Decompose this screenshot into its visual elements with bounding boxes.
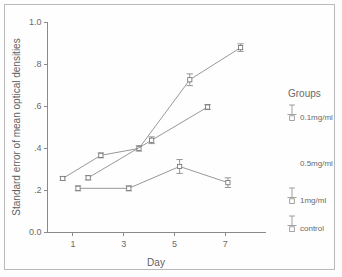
chart-figure: 0.0.2.4.6.81.0 1357 Day Standard error o… xyxy=(0,0,342,277)
data-point-marker xyxy=(76,186,80,190)
series-line xyxy=(88,107,207,178)
legend-item-control[interactable]: control xyxy=(288,216,325,233)
data-point-marker xyxy=(150,138,154,142)
legend-entries: 0.1mg/ml0.5mg/ml1mg/mlcontrol xyxy=(288,105,334,233)
data-point-marker xyxy=(86,176,90,180)
y-axis-tick-labels: 0.0.2.4.6.81.0 xyxy=(29,17,42,237)
legend-item-0-5mg-ml[interactable]: 0.5mg/ml xyxy=(300,159,333,168)
x-tick-label: 7 xyxy=(223,239,228,249)
legend-label: 1mg/ml xyxy=(300,196,326,205)
legend-marker xyxy=(290,199,295,204)
y-tick-label: 1.0 xyxy=(29,17,42,27)
y-tick-label: .6 xyxy=(34,101,42,111)
x-tick-label: 3 xyxy=(121,239,126,249)
chart-legend: Groups 0.1mg/ml0.5mg/ml1mg/mlcontrol xyxy=(288,88,334,233)
series-line xyxy=(78,166,228,188)
x-axis: 1357 xyxy=(48,232,267,249)
series-0-5mg-ml xyxy=(85,105,211,180)
data-point-marker xyxy=(127,186,131,190)
series-0-1mg-ml xyxy=(60,44,244,181)
data-point-marker xyxy=(61,176,65,180)
legend-marker xyxy=(290,116,295,121)
x-axis-tick-labels: 1357 xyxy=(70,239,227,249)
series-line xyxy=(63,48,241,179)
chart-plot-area: 0.0.2.4.6.81.0 1357 Day Standard error o… xyxy=(0,0,342,277)
y-axis-ticks xyxy=(44,22,48,232)
y-axis-title: Standard error of mean optical densities xyxy=(11,38,22,215)
legend-item-1mg-ml[interactable]: 1mg/ml xyxy=(288,188,327,205)
data-point-marker xyxy=(226,181,230,185)
legend-item-0-1mg-ml[interactable]: 0.1mg/ml xyxy=(288,105,334,122)
x-tick-label: 1 xyxy=(70,239,75,249)
data-point-marker xyxy=(178,164,182,168)
x-tick-label: 5 xyxy=(172,239,177,249)
legend-marker xyxy=(290,227,295,232)
data-point-marker xyxy=(188,78,192,82)
legend-title: Groups xyxy=(288,88,321,99)
data-point-marker xyxy=(238,46,242,50)
legend-label: control xyxy=(300,224,324,233)
data-point-marker xyxy=(99,153,103,157)
y-axis: 0.0.2.4.6.81.0 xyxy=(29,17,48,237)
legend-label: 0.1mg/ml xyxy=(300,113,333,122)
y-tick-label: .8 xyxy=(34,59,42,69)
data-series-group xyxy=(60,44,244,191)
y-tick-label: 0.0 xyxy=(29,227,42,237)
series-1mg-ml xyxy=(75,160,231,191)
x-axis-title: Day xyxy=(147,257,165,268)
y-tick-label: .4 xyxy=(34,143,42,153)
data-point-marker xyxy=(205,105,209,109)
y-tick-label: .2 xyxy=(34,185,42,195)
legend-label: 0.5mg/ml xyxy=(300,159,333,168)
